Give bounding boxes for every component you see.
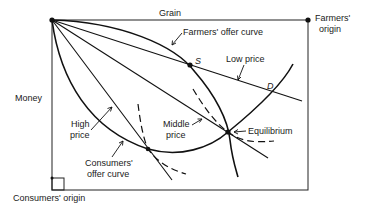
- farmers-origin-dot: [305, 17, 310, 22]
- low-price-arrow: [238, 65, 245, 80]
- middle-price-label-line1: Middle: [163, 119, 190, 129]
- farmers-offer-curve-arrow: [172, 33, 182, 45]
- high-price-arrow: [91, 107, 112, 130]
- farmers-origin-label-line2: origin: [319, 24, 341, 34]
- consumers-origin-label: Consumers' origin: [13, 193, 85, 203]
- grain-axis-label: Grain: [159, 8, 181, 18]
- high-price-label-line2: price: [70, 130, 90, 140]
- farmers-origin-label-line1: Farmers': [315, 13, 350, 23]
- consumers-offer-curve-arrow: [112, 141, 123, 157]
- middle-price-label-line2: price: [166, 130, 186, 140]
- point-d-label: D: [267, 81, 274, 91]
- edgeworth-box-diagram: Grain Money Farmers' origin Consumers' o…: [0, 0, 367, 203]
- equilibrium-arrow: [234, 130, 246, 135]
- point-s-label: S: [195, 56, 201, 66]
- low-price-label: Low price: [226, 54, 265, 64]
- equilibrium-dot: [225, 129, 230, 134]
- equilibrium-label: Equilibrium: [248, 126, 293, 136]
- money-axis-label: Money: [15, 93, 43, 103]
- consumers-offer-curve-label-line2: offer curve: [87, 169, 129, 179]
- consumers-offer-curve-label-line1: Consumers': [85, 158, 133, 168]
- high-price-label-line1: High: [71, 119, 90, 129]
- farmers-offer-curve-label: Farmers' offer curve: [183, 27, 263, 37]
- middle-price-arrow: [192, 119, 202, 125]
- consumers-origin-dot: [51, 177, 54, 180]
- point-s-dot: [187, 62, 192, 67]
- consumers-origin-marker: [52, 178, 64, 190]
- high-price-intersection-dot: [146, 147, 151, 152]
